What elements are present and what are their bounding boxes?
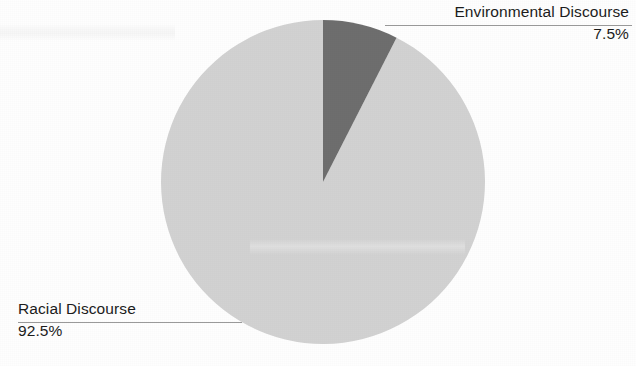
callout-environmental-discourse-name: Environmental Discourse: [454, 2, 629, 21]
callout-racial-discourse-value: 92.5%: [18, 321, 136, 340]
callout-racial-discourse: Racial Discourse 92.5%: [18, 299, 136, 340]
callout-environmental-discourse-value: 7.5%: [454, 24, 629, 43]
callout-environmental-discourse: Environmental Discourse 7.5%: [454, 2, 629, 43]
callout-racial-discourse-name: Racial Discourse: [18, 299, 136, 318]
pie-chart-figure: Environmental Discourse 7.5% Racial Disc…: [0, 0, 636, 366]
pie-slice-racial-discourse[interactable]: [161, 20, 485, 344]
